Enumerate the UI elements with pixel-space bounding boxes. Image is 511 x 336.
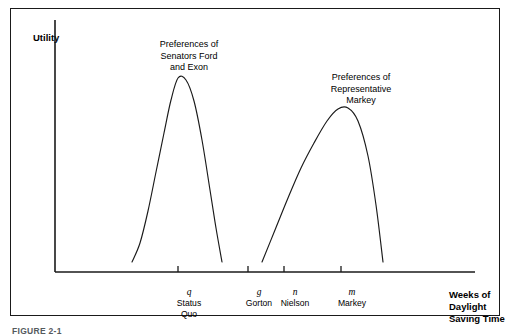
annotation-senators-line-3: and Exon xyxy=(123,62,255,74)
annotation-senators-ford-exon: Preferences of Senators Ford and Exon xyxy=(123,39,255,74)
x-tick-name-q: Status Quo xyxy=(154,298,224,319)
x-axis-title: Weeks of Daylight Saving Time xyxy=(449,289,505,324)
x-tick-symbol-m: m xyxy=(317,286,387,298)
annotation-markey-line-3: Markey xyxy=(295,95,427,107)
figure-caption: FIGURE 2-1 xyxy=(12,326,62,336)
annotation-markey-line-1: Preferences of xyxy=(295,72,427,84)
figure-frame: Utility Weeks of Daylight Saving Time Pr… xyxy=(10,8,500,316)
y-axis-title: Utility xyxy=(33,32,59,44)
annotation-senators-line-2: Senators Ford xyxy=(123,51,255,63)
x-axis-title-line-3: Saving Time xyxy=(449,313,505,325)
x-tick-label-m: m Markey xyxy=(317,286,387,309)
x-tick-label-q: q Status Quo xyxy=(154,286,224,319)
x-axis-title-line-2: Daylight xyxy=(449,301,505,313)
x-tick-symbol-q: q xyxy=(154,286,224,298)
x-tick-name-m: Markey xyxy=(317,298,387,309)
annotation-markey-line-2: Representative xyxy=(295,84,427,96)
annotation-senators-line-1: Preferences of xyxy=(123,39,255,51)
x-axis-title-line-1: Weeks of xyxy=(449,289,505,301)
annotation-representative-markey: Preferences of Representative Markey xyxy=(295,72,427,107)
